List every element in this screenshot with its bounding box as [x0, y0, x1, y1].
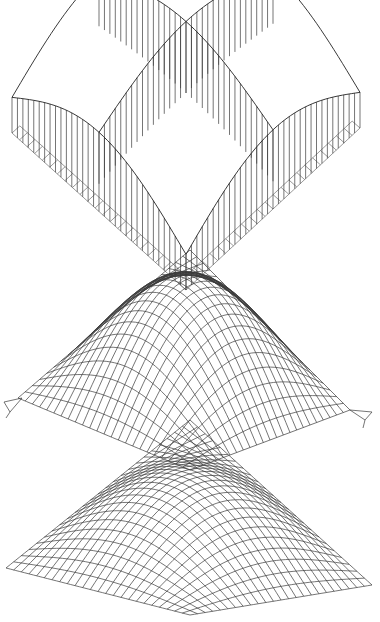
mesh-line-v	[40, 270, 211, 407]
support-right	[350, 410, 372, 420]
mesh-line-u	[61, 334, 230, 455]
mesh-line-u	[144, 457, 327, 593]
ground-tick	[156, 255, 164, 262]
mesh-line-v	[144, 527, 327, 603]
mesh-line-u	[75, 495, 258, 604]
vertical-struts	[12, 0, 360, 290]
mesh-line-u	[111, 276, 277, 438]
mesh-line-u	[67, 502, 250, 605]
mesh-line-u	[190, 250, 350, 410]
ground-tick	[12, 126, 20, 133]
mesh-line-v	[75, 272, 243, 422]
ground-tick	[118, 221, 126, 228]
mesh-line-v	[176, 396, 337, 464]
corner-supported-net-figure	[4, 250, 372, 470]
ground-tick	[35, 146, 43, 153]
mesh-line-u	[14, 562, 198, 614]
ground-tick	[80, 187, 88, 194]
ground-tick	[257, 209, 265, 216]
net-mesh	[18, 250, 350, 470]
ground-tick	[328, 143, 336, 150]
ground-tick	[72, 180, 80, 187]
ground-tick	[202, 261, 210, 268]
mesh-line-v	[98, 480, 281, 591]
ground-tick	[336, 136, 344, 143]
ground-tick	[281, 187, 289, 194]
corner-supported-shell-figure	[6, 420, 372, 615]
ground-tick	[265, 202, 273, 209]
ground-tick	[210, 254, 218, 261]
support-left	[4, 398, 22, 412]
mesh-line-v	[47, 275, 217, 410]
ground-tick	[110, 214, 118, 221]
ground-tick	[50, 160, 58, 167]
support-right-leg	[363, 420, 365, 428]
mesh-line-u	[118, 273, 283, 435]
mesh-line-v	[190, 585, 372, 615]
mesh-line-v	[159, 548, 341, 607]
ground-tick	[297, 173, 305, 180]
ground-tick	[103, 208, 111, 215]
ground-tick	[273, 195, 281, 202]
ground-edge-inner	[20, 121, 352, 276]
ground-tick	[344, 128, 352, 135]
mesh-line-v	[154, 353, 317, 455]
ground-tick	[20, 133, 28, 140]
ground-tick	[42, 153, 50, 160]
ground-tick	[140, 242, 148, 249]
ground-tick	[148, 248, 156, 255]
mesh-line-u	[21, 556, 205, 613]
vault-with-struts-figure	[12, 0, 360, 290]
mesh-line-u	[75, 311, 243, 450]
ground-tick	[289, 180, 297, 187]
ground-tick	[249, 217, 257, 224]
mesh-line-u	[54, 347, 224, 457]
ground-tick	[241, 224, 249, 231]
mesh-line-u	[169, 269, 331, 418]
mesh-line-u	[176, 262, 337, 415]
mesh-line-u	[167, 439, 349, 589]
support-left-leg	[6, 412, 10, 418]
shell-mesh	[6, 420, 372, 615]
mesh-line-u	[40, 375, 211, 463]
ground-tick	[88, 194, 96, 201]
diagram-canvas	[0, 0, 380, 622]
ground-tick	[352, 121, 360, 128]
